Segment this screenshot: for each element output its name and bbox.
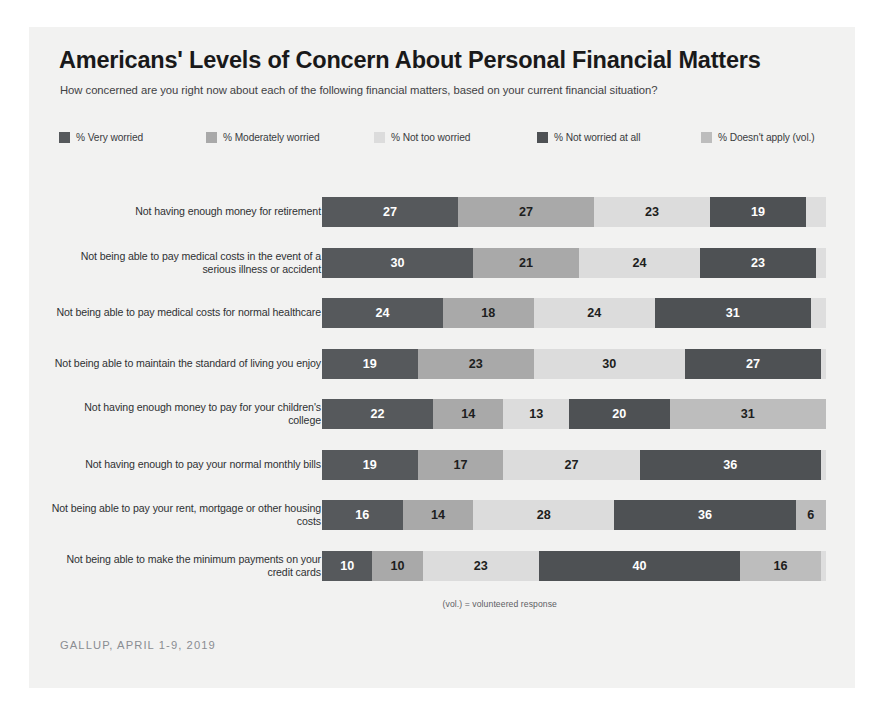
bar-segment-value: 36 [723,458,737,472]
bar-segment[interactable]: 24 [322,298,443,328]
legend-swatch-icon [206,132,217,143]
row-label: Not having enough money for retirement [51,205,321,218]
bar-segment-value: 19 [363,357,377,371]
stacked-bar: 30212423 [322,248,826,278]
stacked-bar: 2214132031 [322,399,826,429]
legend-swatch-icon [59,132,70,143]
legend-item[interactable]: % Moderately worried [206,132,320,143]
bar-segment[interactable]: 19 [710,197,806,227]
bar-segment[interactable]: 36 [614,500,795,530]
row-label: Not having enough money to pay for your … [51,401,321,428]
bar-segment-value: 31 [726,306,740,320]
bar-segment[interactable]: 6 [796,500,826,530]
bar-segment[interactable]: 20 [569,399,670,429]
bar-segment[interactable]: 14 [433,399,504,429]
bar-segment-value: 17 [454,458,468,472]
bar-segment-value: 36 [698,508,712,522]
bar-segment-value: 21 [519,256,533,270]
bar-segment-value: 23 [645,205,659,219]
bar-segment[interactable]: 10 [322,551,372,581]
legend-item[interactable]: % Very worried [59,132,143,143]
bar-segment[interactable]: 13 [503,399,569,429]
bar-segment-value: 27 [519,205,533,219]
chart-row: Not being able to pay medical costs for … [29,294,855,332]
chart-row: Not having enough money to pay for your … [29,395,855,433]
bar-segment[interactable]: 24 [534,298,655,328]
bar-segment-value: 19 [751,205,765,219]
bar-segment[interactable]: 31 [670,399,826,429]
bar-segment[interactable]: 23 [418,349,534,379]
row-label: Not having enough to pay your normal mon… [51,458,321,471]
bar-segment-value: 22 [370,407,384,421]
bar-segment[interactable]: 27 [503,450,639,480]
chart-row: Not being able to pay medical costs in t… [29,244,855,282]
bar-segment-value: 18 [481,306,495,320]
bar-segment-value: 13 [529,407,543,421]
legend-item[interactable]: % Doesn't apply (vol.) [701,132,815,143]
bar-segment-value: 10 [340,559,354,573]
chart-legend: % Very worried% Moderately worried% Not … [59,132,839,150]
bar-segment[interactable]: 36 [640,450,821,480]
bar-segment-value: 24 [375,306,389,320]
bar-segment[interactable]: 19 [322,349,418,379]
legend-item[interactable]: % Not worried at all [537,132,640,143]
bar-segment-value: 23 [751,256,765,270]
legend-label: % Moderately worried [223,132,320,143]
stacked-bar: 1010234016 [322,551,826,581]
bar-segment-value: 16 [355,508,369,522]
legend-swatch-icon [701,132,712,143]
chart-plot-area: Not having enough money for retirement27… [29,193,855,597]
bar-segment[interactable]: 18 [443,298,534,328]
bar-segment[interactable]: 31 [655,298,811,328]
bar-segment-value: 27 [746,357,760,371]
bar-segment[interactable]: 24 [579,248,700,278]
legend-label: % Not too worried [391,132,470,143]
bar-segment[interactable]: 28 [473,500,614,530]
bar-segment-value: 28 [537,508,551,522]
bar-segment-value: 6 [807,508,814,522]
bar-segment-value: 16 [774,559,788,573]
bar-segment[interactable]: 19 [322,450,418,480]
chart-row: Not being able to make the minimum payme… [29,547,855,585]
bar-segment-value: 24 [632,256,646,270]
bar-segment[interactable]: 40 [539,551,741,581]
bar-segment[interactable]: 27 [322,197,458,227]
bar-segment[interactable]: 14 [403,500,474,530]
volunteered-response-note: (vol.) = volunteered response [29,599,557,609]
chart-row: Not being able to pay your rent, mortgag… [29,496,855,534]
legend-label: % Doesn't apply (vol.) [718,132,815,143]
bar-segment[interactable]: 10 [372,551,422,581]
bar-segment[interactable]: 23 [423,551,539,581]
stacked-bar: 24182431 [322,298,826,328]
bar-segment[interactable]: 21 [473,248,579,278]
bar-segment[interactable]: 23 [594,197,710,227]
bar-segment-value: 40 [632,559,646,573]
row-label: Not being able to maintain the standard … [51,357,321,370]
bar-segment-value: 19 [363,458,377,472]
bar-segment[interactable]: 17 [418,450,504,480]
bar-segment[interactable]: 27 [458,197,594,227]
bar-segment[interactable]: 30 [534,349,685,379]
bar-segment[interactable]: 23 [700,248,816,278]
bar-segment-value: 14 [431,508,445,522]
chart-row: Not being able to maintain the standard … [29,345,855,383]
stacked-bar: 27272319 [322,197,826,227]
chart-subtitle: How concerned are you right now about ea… [60,84,830,96]
bar-segment[interactable]: 16 [740,551,821,581]
bar-segment-value: 24 [587,306,601,320]
bar-segment[interactable]: 27 [685,349,821,379]
bar-segment[interactable]: 30 [322,248,473,278]
row-label: Not being able to pay medical costs in t… [51,249,321,276]
source-attribution: GALLUP, APRIL 1-9, 2019 [60,639,216,651]
legend-swatch-icon [374,132,385,143]
legend-label: % Very worried [76,132,143,143]
legend-item[interactable]: % Not too worried [374,132,470,143]
bar-segment-value: 23 [474,559,488,573]
bar-segment-value: 27 [383,205,397,219]
page-title: Americans' Levels of Concern About Perso… [59,47,819,74]
bar-segment-value: 10 [391,559,405,573]
bar-segment[interactable]: 22 [322,399,433,429]
bar-segment-value: 14 [461,407,475,421]
row-label: Not being able to pay your rent, mortgag… [51,502,321,529]
bar-segment[interactable]: 16 [322,500,403,530]
